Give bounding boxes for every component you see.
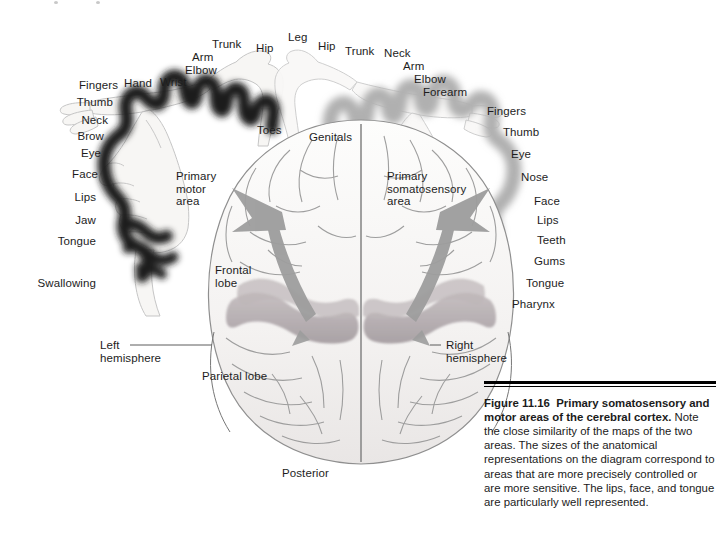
caption-rule-thin bbox=[484, 386, 716, 387]
primary-motor-area-line1: Primary bbox=[176, 170, 246, 183]
primary-motor-area-label: Primary motor area bbox=[176, 170, 246, 208]
right-hemisphere-line1: Right bbox=[446, 339, 528, 352]
sensory-label-arm: Arm bbox=[403, 60, 424, 73]
frontal-lobe-label: Frontal lobe bbox=[215, 264, 271, 289]
motor-label-elbow: Elbow bbox=[185, 64, 217, 77]
primary-somatosensory-area-label: Primary somatosensory area bbox=[387, 170, 487, 208]
right-hemisphere-label: Right hemisphere bbox=[446, 339, 528, 364]
sensory-label-eye: Eye bbox=[511, 148, 531, 161]
sensory-label-pharynx: Pharynx bbox=[512, 298, 555, 311]
sensory-label-nose: Nose bbox=[521, 171, 548, 184]
sensory-label-face: Face bbox=[534, 195, 560, 208]
motor-label-fingers: Fingers bbox=[58, 79, 118, 92]
left-hemisphere-line1: Left bbox=[100, 339, 178, 352]
primary-motor-area-line3: area bbox=[176, 195, 246, 208]
figure-caption: Figure 11.16 Primary somatosensory and m… bbox=[484, 381, 716, 509]
motor-label-hip: Hip bbox=[256, 42, 274, 55]
frontal-lobe-line1: Frontal bbox=[215, 264, 271, 277]
sensory-label-hip: Hip bbox=[318, 40, 336, 53]
sensory-label-elbow: Elbow bbox=[414, 73, 446, 86]
motor-label-tongue: Tongue bbox=[28, 235, 96, 248]
sensory-label-fingers: Fingers bbox=[487, 105, 526, 118]
motor-label-hand: Hand bbox=[124, 77, 152, 90]
caption-text: Figure 11.16 Primary somatosensory and m… bbox=[484, 396, 716, 510]
posterior-label: Posterior bbox=[282, 467, 329, 480]
primary-somatosensory-area-line1: Primary bbox=[387, 170, 487, 183]
motor-label-lips: Lips bbox=[40, 191, 96, 204]
motor-label-eye: Eye bbox=[45, 147, 101, 160]
motor-label-wrist: Wrist bbox=[160, 76, 186, 89]
motor-label-swallowing: Swallowing bbox=[12, 277, 96, 290]
motor-label-toes: Toes bbox=[257, 124, 282, 137]
sensory-label-genitals: Genitals bbox=[309, 131, 352, 144]
sensory-label-trunk: Trunk bbox=[345, 45, 374, 58]
motor-label-neck: Neck bbox=[52, 114, 108, 127]
figure-11-16: Trunk Hip Arm Elbow Wrist Hand Toes Fing… bbox=[0, 0, 723, 536]
sensory-label-thumb: Thumb bbox=[503, 126, 539, 139]
motor-label-trunk: Trunk bbox=[212, 38, 241, 51]
sensory-label-teeth: Teeth bbox=[537, 234, 566, 247]
sensory-label-tongue: Tongue bbox=[526, 277, 564, 290]
motor-label-face: Face bbox=[42, 168, 98, 181]
frontal-lobe-line2: lobe bbox=[215, 277, 271, 290]
sensory-label-lips: Lips bbox=[537, 214, 559, 227]
sensory-label-gums: Gums bbox=[534, 255, 565, 268]
sensory-label-forearm: Forearm bbox=[423, 86, 467, 99]
sensory-label-neck: Neck bbox=[384, 47, 411, 60]
motor-label-thumb: Thumb bbox=[55, 96, 113, 109]
parietal-lobe-label: Parietal lobe bbox=[202, 370, 267, 383]
caption-figure-number: Figure 11.16 bbox=[484, 397, 550, 409]
primary-motor-area-line2: motor bbox=[176, 183, 246, 196]
caption-rule-thick bbox=[484, 381, 716, 384]
left-hemisphere-label: Left hemisphere bbox=[100, 339, 178, 364]
motor-label-arm: Arm bbox=[192, 51, 213, 64]
primary-somatosensory-area-line3: area bbox=[387, 195, 487, 208]
sensory-label-leg: Leg bbox=[288, 31, 308, 44]
left-hemisphere-line2: hemisphere bbox=[100, 352, 178, 365]
primary-somatosensory-area-line2: somatosensory bbox=[387, 183, 487, 196]
motor-label-brow: Brow bbox=[48, 130, 104, 143]
motor-label-jaw: Jaw bbox=[40, 214, 96, 227]
right-hemisphere-line2: hemisphere bbox=[446, 352, 528, 365]
caption-figure-body: Note the close similarity of the maps of… bbox=[484, 411, 714, 508]
